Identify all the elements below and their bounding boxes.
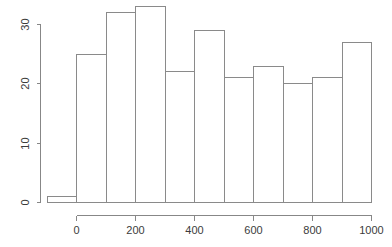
histogram-bar <box>77 54 107 202</box>
x-tick-label-0: 0 <box>73 224 79 236</box>
histogram-bar <box>342 42 372 202</box>
y-tick-label-0: 0 <box>19 199 31 205</box>
histogram-bar <box>224 78 254 203</box>
histogram-bar <box>136 7 166 203</box>
histogram-bar <box>283 84 313 203</box>
y-tick-label-20: 20 <box>19 77 31 89</box>
histogram-bar <box>313 78 343 203</box>
x-axis-ticks <box>77 216 372 221</box>
x-axis: 02004006008001000 <box>73 216 383 237</box>
y-tick-label-10: 10 <box>19 137 31 149</box>
histogram-bar <box>47 197 77 203</box>
x-axis-tick-labels: 02004006008001000 <box>73 224 383 236</box>
histogram-plot: 30 20 10 0 02004006008001000 <box>0 0 392 247</box>
histogram-bar <box>106 13 136 203</box>
y-axis: 30 20 10 0 <box>19 18 41 205</box>
histogram-bar <box>254 66 284 202</box>
x-tick-label-800: 800 <box>303 224 321 236</box>
x-tick-label-400: 400 <box>185 224 203 236</box>
x-tick-label-200: 200 <box>126 224 144 236</box>
histogram-bars <box>47 7 372 203</box>
y-tick-label-30: 30 <box>19 18 31 30</box>
x-tick-label-1000: 1000 <box>359 224 383 236</box>
histogram-bar <box>165 72 195 203</box>
histogram-bar <box>195 30 225 202</box>
x-tick-label-600: 600 <box>244 224 262 236</box>
plot-canvas: 30 20 10 0 02004006008001000 <box>0 0 392 247</box>
